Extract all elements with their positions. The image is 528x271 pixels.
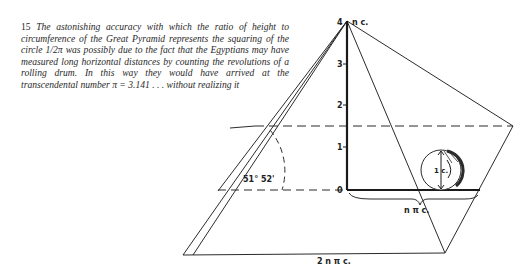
brace: [349, 193, 478, 205]
tick-1: 1: [337, 143, 343, 152]
pyramid-edge-right-top: [347, 21, 513, 126]
pyramid-base-edge: [183, 253, 445, 255]
pyramid-inner-edge: [347, 21, 445, 253]
pyramid-diagram: 4 n c. 3 2 1 0 51° 52' 1 c. n π c. 2 n π…: [0, 0, 528, 271]
apex-label-right: n c.: [352, 18, 368, 27]
ground-label: n π c.: [404, 206, 429, 215]
apex-label-left: 4: [337, 18, 343, 27]
angle-label: 51° 52': [243, 175, 275, 184]
tick-2: 2: [337, 101, 343, 110]
tick-3: 3: [337, 60, 343, 69]
base-label: 2 n π c.: [317, 257, 351, 266]
drum-label: 1 c.: [434, 167, 448, 175]
edge-hatch: [230, 126, 255, 128]
tick-0: 0: [337, 186, 343, 195]
